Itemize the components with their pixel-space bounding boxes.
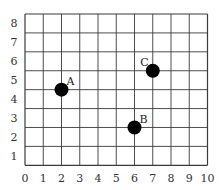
y-tick-label: 4	[11, 93, 18, 106]
y-tick-label: 6	[11, 55, 18, 68]
x-tick-label: 6	[131, 172, 138, 185]
x-tick-label: 4	[95, 172, 102, 185]
x-tick-label: 10	[201, 172, 215, 185]
y-tick-label: 7	[11, 36, 18, 49]
y-tick-label: 5	[11, 74, 18, 87]
point-label: A	[66, 75, 76, 88]
y-tick-label: 2	[11, 131, 18, 144]
y-tick-label: 8	[11, 17, 18, 30]
y-tick-label: 3	[11, 112, 18, 125]
x-tick-label: 9	[186, 172, 193, 185]
x-tick-label: 8	[168, 172, 175, 185]
point-label: C	[140, 56, 148, 69]
x-tick-label: 7	[149, 172, 156, 185]
data-points: ABC	[55, 56, 160, 135]
point-label: B	[140, 113, 148, 126]
coordinate-grid-chart: 012345678910 12345678 ABC	[0, 0, 220, 190]
x-tick-label: 3	[76, 172, 83, 185]
y-tick-label: 1	[11, 150, 18, 163]
x-axis-ticks: 012345678910	[22, 172, 215, 185]
x-tick-label: 1	[40, 172, 47, 185]
grid-lines	[25, 14, 208, 165]
x-tick-label: 2	[58, 172, 65, 185]
y-axis-ticks: 12345678	[11, 17, 18, 162]
x-tick-label: 5	[113, 172, 120, 185]
x-tick-label: 0	[22, 172, 29, 185]
